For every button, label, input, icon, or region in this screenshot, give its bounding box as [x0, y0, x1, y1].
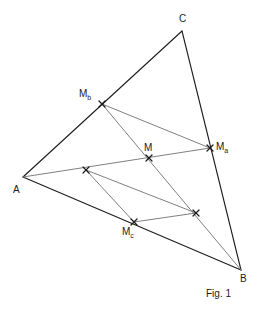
label-Mc: Mc	[122, 227, 134, 239]
label-subscript-Ma: a	[224, 147, 228, 154]
figure-caption: Fig. 1	[206, 288, 231, 299]
label-text-M: M	[144, 142, 152, 153]
point-marker-P1	[83, 167, 89, 173]
label-subscript-Mc: c	[130, 232, 134, 239]
geometry-figure	[0, 0, 259, 313]
label-text-A: A	[13, 184, 20, 195]
label-subscript-Mb: b	[87, 94, 91, 101]
midline-Mb-Ma	[102, 104, 210, 148]
label-A: A	[13, 185, 20, 195]
median-A-Ma	[23, 148, 210, 177]
seg-Mc-P2	[134, 213, 196, 222]
label-B: B	[240, 274, 247, 284]
point-markers	[83, 101, 213, 225]
point-marker-Mb	[99, 101, 105, 107]
label-Ma: Ma	[216, 142, 228, 154]
label-Mb: Mb	[79, 89, 91, 101]
label-text-B: B	[240, 273, 247, 284]
inner-segments	[23, 104, 241, 270]
seg-P1-P2	[86, 170, 196, 213]
label-text-C: C	[179, 13, 186, 24]
label-C: C	[179, 14, 186, 24]
label-M: M	[144, 143, 152, 153]
